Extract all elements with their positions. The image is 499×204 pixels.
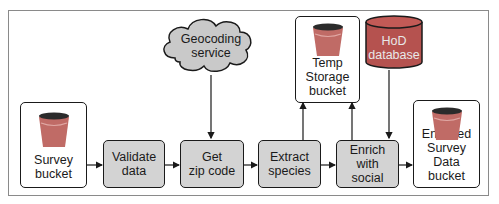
extract-species-label: Extract species	[268, 150, 310, 178]
temp-storage-bucket-label: Temp Storage bucket	[306, 56, 350, 98]
bucket-icon	[311, 22, 345, 58]
enriched-survey-data-bucket-node: Enriched Survey Data bucket	[413, 100, 480, 188]
enrich-with-social-node: Enrich with social	[336, 140, 399, 188]
get-zip-code-label: Get zip code	[189, 150, 236, 178]
temp-storage-bucket-node: Temp Storage bucket	[295, 16, 360, 103]
get-zip-code-node: Get zip code	[180, 140, 244, 188]
survey-bucket-label: Survey bucket	[34, 153, 73, 181]
bucket-icon	[37, 111, 71, 149]
validate-data-node: Validate data	[103, 140, 165, 188]
bucket-icon	[430, 106, 464, 142]
hod-database-label: HoD database	[366, 34, 422, 62]
extract-species-node: Extract species	[258, 140, 321, 188]
geocoding-service-label: Geocoding service	[175, 32, 247, 60]
validate-data-label: Validate data	[112, 150, 156, 178]
enrich-with-social-label: Enrich with social	[337, 143, 398, 185]
survey-bucket-node: Survey bucket	[20, 102, 87, 188]
